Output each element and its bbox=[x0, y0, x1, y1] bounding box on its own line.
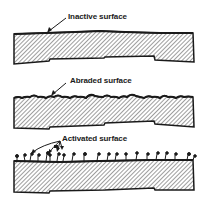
activated-substrate bbox=[14, 160, 194, 193]
activated-surface-label: Activated surface bbox=[62, 134, 127, 143]
inactive-surface-panel bbox=[14, 18, 194, 64]
inactive-arrow-icon bbox=[49, 18, 66, 31]
abraded-surface-panel bbox=[14, 83, 194, 129]
activated-surface-panel bbox=[14, 141, 196, 193]
surface-diagram bbox=[0, 0, 211, 203]
abraded-surface-label: Abraded surface bbox=[70, 76, 132, 85]
abraded-substrate bbox=[14, 95, 194, 129]
inactive-surface-label: Inactive surface bbox=[68, 12, 127, 21]
inactive-substrate bbox=[14, 31, 194, 64]
